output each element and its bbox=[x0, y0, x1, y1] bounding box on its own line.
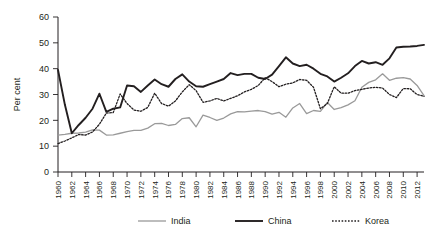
legend-label-korea: Korea bbox=[365, 216, 389, 226]
x-tick-label: 2004 bbox=[358, 180, 367, 198]
chart-legend: IndiaChinaKorea bbox=[138, 216, 389, 226]
series-lines bbox=[58, 45, 424, 144]
x-axis-ticks: 1960196219641966196819701972197419761978… bbox=[54, 172, 422, 199]
x-tick-label: 1964 bbox=[82, 180, 91, 198]
y-tick-label: 60 bbox=[39, 12, 49, 22]
series-line-korea bbox=[58, 78, 424, 144]
y-axis-label: Per cent bbox=[12, 77, 22, 111]
x-tick-label: 1960 bbox=[54, 180, 63, 198]
x-tick-label: 1996 bbox=[303, 180, 312, 198]
y-tick-label: 0 bbox=[44, 167, 49, 177]
x-tick-label: 2002 bbox=[344, 180, 353, 198]
x-tick-label: 1982 bbox=[206, 180, 215, 198]
x-tick-label: 1998 bbox=[316, 180, 325, 198]
x-tick-label: 1992 bbox=[275, 180, 284, 198]
x-tick-label: 1970 bbox=[123, 180, 132, 198]
x-tick-label: 2010 bbox=[399, 180, 408, 198]
x-tick-label: 1990 bbox=[261, 180, 270, 198]
x-tick-label: 1968 bbox=[109, 180, 118, 198]
x-tick-label: 2000 bbox=[330, 180, 339, 198]
y-tick-label: 30 bbox=[39, 90, 49, 100]
x-tick-label: 1988 bbox=[247, 180, 256, 198]
x-tick-label: 1980 bbox=[192, 180, 201, 198]
x-tick-label: 1962 bbox=[68, 180, 77, 198]
line-chart: Per cent 0102030405060 19601962196419661… bbox=[0, 0, 434, 238]
x-tick-label: 1986 bbox=[234, 180, 243, 198]
y-tick-label: 40 bbox=[39, 64, 49, 74]
x-tick-label: 2012 bbox=[413, 180, 422, 198]
y-tick-label: 10 bbox=[39, 141, 49, 151]
x-tick-label: 1978 bbox=[178, 180, 187, 198]
x-tick-label: 1976 bbox=[164, 180, 173, 198]
legend-label-india: India bbox=[171, 216, 191, 226]
series-line-china bbox=[58, 45, 424, 133]
y-axis-ticks: 0102030405060 bbox=[39, 12, 58, 177]
x-tick-label: 1994 bbox=[289, 180, 298, 198]
x-tick-label: 2008 bbox=[385, 180, 394, 198]
x-tick-label: 2006 bbox=[372, 180, 381, 198]
chart-canvas: Per cent 0102030405060 19601962196419661… bbox=[0, 0, 434, 238]
legend-label-china: China bbox=[268, 216, 292, 226]
series-line-india bbox=[58, 74, 424, 135]
y-tick-label: 50 bbox=[39, 38, 49, 48]
x-tick-label: 1972 bbox=[137, 180, 146, 198]
x-tick-label: 1984 bbox=[220, 180, 229, 198]
x-tick-label: 1974 bbox=[151, 180, 160, 198]
x-tick-label: 1966 bbox=[95, 180, 104, 198]
y-tick-label: 20 bbox=[39, 116, 49, 126]
